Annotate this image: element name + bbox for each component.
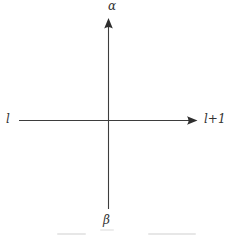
cutoff-caption-fragment xyxy=(148,233,196,235)
alpha-label: α xyxy=(108,0,116,13)
axis-diagram: α β l l+1 xyxy=(0,0,234,237)
axes-graphic xyxy=(0,0,234,237)
right-arrowhead-icon xyxy=(187,116,198,125)
up-arrowhead-icon xyxy=(104,18,113,29)
cutoff-caption-fragment xyxy=(100,229,114,231)
right-axis-label: l+1 xyxy=(204,112,226,126)
left-axis-label: l xyxy=(6,112,10,126)
beta-label: β xyxy=(103,213,110,227)
cutoff-caption-fragment xyxy=(57,233,86,235)
